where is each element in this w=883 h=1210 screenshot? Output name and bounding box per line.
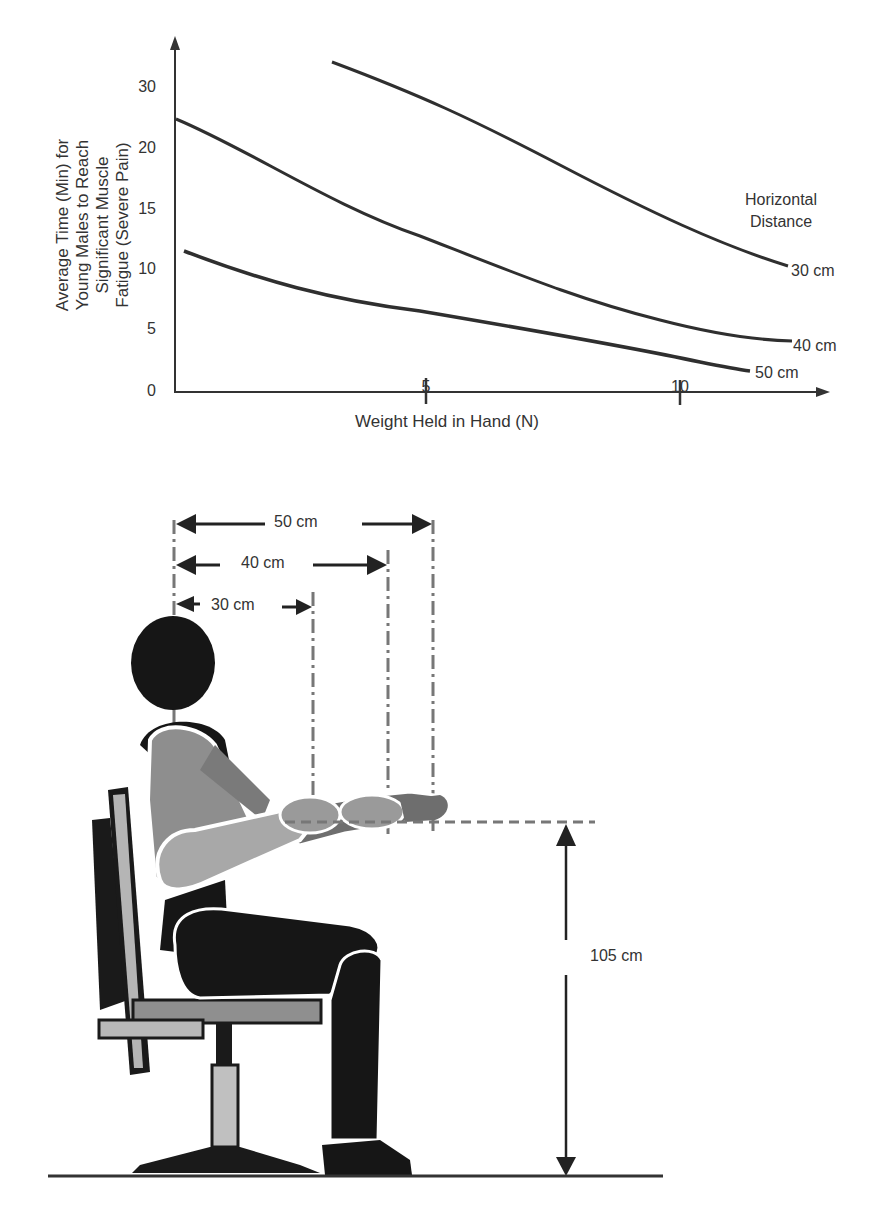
- dimension-label-105cm: 105 cm: [586, 947, 646, 965]
- seated-person: [131, 616, 448, 1175]
- head: [131, 616, 215, 710]
- dimension-label-30cm: 30 cm: [207, 596, 259, 614]
- dimension-105cm: [556, 824, 576, 1176]
- figure-illustration: [0, 0, 883, 1210]
- dimension-label-40cm: 40 cm: [237, 554, 289, 572]
- dimension-label-50cm: 50 cm: [270, 513, 322, 531]
